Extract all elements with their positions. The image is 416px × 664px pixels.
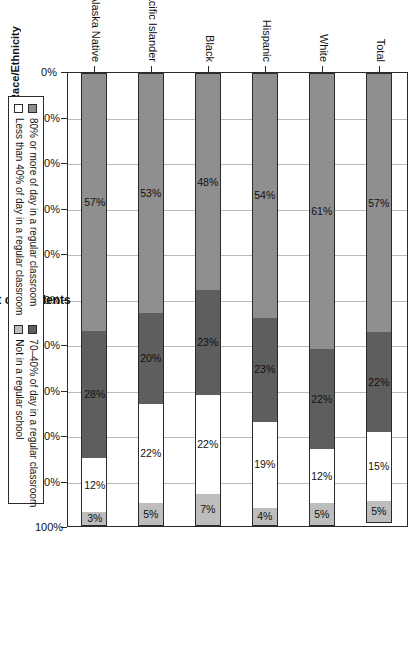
bar-segment: 12% [309,449,335,503]
bar-segment: 19% [252,422,278,508]
bar-row: 57%22%15%5% [366,73,392,526]
bar-row: 61%22%12%5% [309,73,335,526]
bar-segment: 20% [138,313,164,404]
bar-segment: 5% [366,501,392,524]
bar-segment-label: 3% [87,513,102,524]
bar-segment: 22% [309,349,335,449]
bar-segment-label: 7% [201,504,216,515]
bar-segment-label: 53% [141,188,162,199]
bar-segment-label: 15% [368,461,389,472]
bar-segment-label: 22% [198,439,219,450]
bar-segment: 61% [309,73,335,349]
plot-area: 57%22%15%5%61%22%12%5%54%23%19%4%48%23%2… [67,72,408,527]
legend-swatch-icon [29,325,38,334]
legend-swatch-icon [29,104,38,113]
bar-segment-label: 22% [368,377,389,388]
rotated-figure-container: 57%22%15%5%61%22%12%5%54%23%19%4%48%23%2… [0,0,416,664]
category-tick [151,66,152,72]
legend-entry[interactable]: 80% or more of day in a regular classroo… [27,104,39,315]
category-tick [265,66,266,72]
bar-segment-label: 23% [198,337,219,348]
bar-segment: 12% [81,458,107,512]
bar-segment: 15% [366,432,392,500]
legend-label: 70–40% of day in a regular classroom [28,339,39,507]
bar-segment-label: 28% [84,389,105,400]
bar-segment-label: 19% [254,460,275,471]
stacked-bars-layer: 57%22%15%5%61%22%12%5%54%23%19%4%48%23%2… [68,73,407,526]
legend-label: Less than 40% of day in a regular classr… [14,118,25,315]
axis-tick-label: 100% [29,521,69,533]
category-axis: TotalWhiteHispanicBlackAsian/Pacific Isl… [67,0,408,72]
category-tick [94,66,95,72]
legend-entry[interactable]: 70–40% of day in a regular classroom [27,325,39,507]
bar-row: 57%28%12%3% [81,73,107,526]
bar-segment-label: 22% [141,448,162,459]
category-label: Total [375,0,387,62]
chart-figure: 57%22%15%5%61%22%12%5%54%23%19%4%48%23%2… [0,0,416,664]
bar-row: 53%20%22%5% [138,73,164,526]
legend: 80% or more of day in a regular classroo… [8,96,44,504]
bar-segment-label: 12% [311,471,332,482]
bar-segment: 5% [309,503,335,526]
legend-label: Not in a regular school [14,339,25,439]
bar-segment-label: 12% [84,480,105,491]
legend-label: 80% or more of day in a regular classroo… [28,118,39,306]
bar-segment: 57% [81,73,107,331]
category-label: White [318,0,330,62]
bar-segment: 22% [138,404,164,504]
bar-segment: 3% [81,512,107,526]
bar-segment: 5% [138,503,164,526]
bar-segment: 23% [252,318,278,422]
category-label: Hispanic [261,0,273,62]
bar-segment-label: 5% [314,509,329,520]
category-label: Black [204,0,216,62]
bar-segment-label: 61% [311,206,332,217]
bar-segment: 57% [366,73,392,332]
legend-entry[interactable]: Not in a regular school [13,325,25,507]
legend-swatch-icon [15,325,24,334]
bar-segment: 7% [195,494,221,526]
bar-segment-label: 20% [141,353,162,364]
legend-entry[interactable]: Less than 40% of day in a regular classr… [13,104,25,315]
bar-segment-label: 5% [371,506,386,517]
bar-segment: 28% [81,331,107,458]
bar-segment-label: 57% [368,198,389,209]
bar-segment: 48% [195,73,221,290]
category-tick [208,66,209,72]
axis-tick-label: 0% [29,66,69,78]
bar-segment-label: 4% [257,511,272,522]
bar-segment: 4% [252,508,278,526]
bar-segment-label: 48% [198,177,219,188]
bar-segment: 22% [366,332,392,432]
bar-segment-label: 54% [254,191,275,202]
bar-row: 48%23%22%7% [195,73,221,526]
category-label: Asian/Pacific Islander [147,0,159,62]
bar-segment: 22% [195,395,221,495]
bar-segment: 53% [138,73,164,313]
category-tick [322,66,323,72]
bar-segment: 54% [252,73,278,318]
bar-segment-label: 5% [144,509,159,520]
bar-segment: 23% [195,290,221,394]
legend-swatch-icon [15,104,24,113]
bar-segment-label: 57% [84,197,105,208]
category-label: American Indian/Alaska Native [90,0,102,62]
bar-segment-label: 23% [254,364,275,375]
category-tick [379,66,380,72]
bar-segment-label: 22% [311,394,332,405]
bar-row: 54%23%19%4% [252,73,278,526]
legend-grid: 80% or more of day in a regular classroo… [13,104,39,496]
